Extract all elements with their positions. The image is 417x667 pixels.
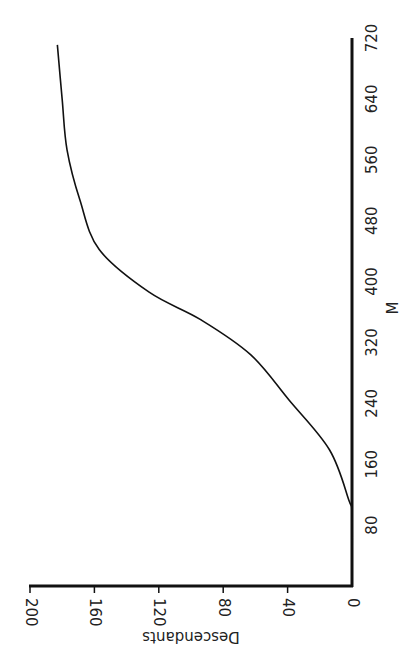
m-ticks: 80160240320400480560640720 (363, 24, 381, 535)
descendants-axis-title: Descendants (142, 628, 240, 646)
m-tick-label: 640 (363, 85, 381, 114)
m-tick-label: 720 (363, 24, 381, 53)
descendants-tick-label: 0 (344, 598, 362, 608)
descendants-tick-label: 80 (215, 598, 233, 617)
m-tick-label: 240 (363, 389, 381, 418)
descendants-tick-label: 200 (22, 598, 40, 627)
m-axis-title: M (384, 302, 402, 315)
m-tick-label: 560 (363, 145, 381, 174)
m-tick-label: 400 (363, 267, 381, 296)
descendants-tick-label: 160 (86, 598, 104, 627)
m-tick-label: 320 (363, 328, 381, 357)
descendants-tick-label: 120 (150, 598, 168, 627)
descendants-tick-label: 40 (279, 598, 297, 617)
m-tick-label: 160 (363, 450, 381, 479)
chart: 04080120160200 8016024032040048056064072… (0, 0, 417, 667)
m-tick-label: 80 (363, 516, 381, 535)
descendants-ticks: 04080120160200 (22, 586, 362, 627)
m-tick-label: 480 (363, 206, 381, 235)
descendants-curve (57, 45, 352, 586)
